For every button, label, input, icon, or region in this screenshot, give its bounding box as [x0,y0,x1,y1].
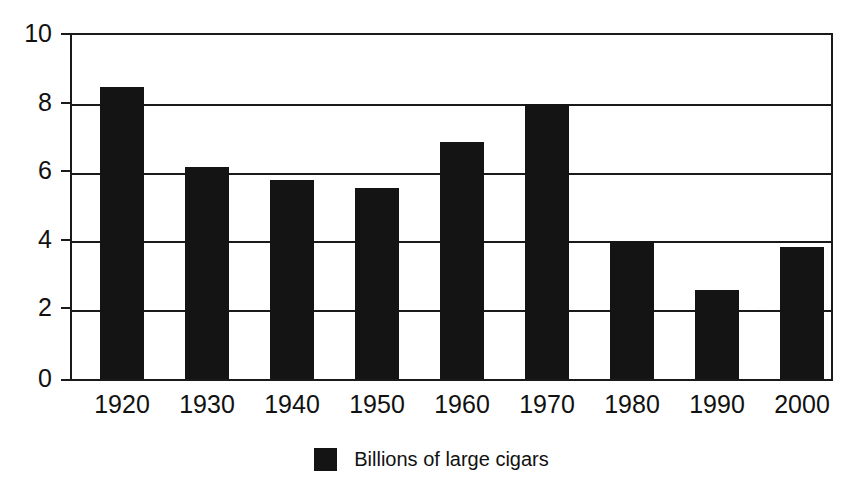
bar-1930 [185,167,229,379]
gridline-8 [72,104,831,106]
bar-1980 [610,241,654,379]
y-axis-tick-0 [61,379,70,381]
bar-1960 [440,142,484,379]
chart-title [0,0,863,3]
bar-1940 [270,180,314,380]
y-axis-tick-6 [61,170,70,172]
y-axis-tick-10 [61,33,70,35]
bar-1970 [525,104,569,379]
y-axis-label-4: 4 [6,227,52,252]
bar-1990 [695,290,739,379]
legend-label: Billions of large cigars [354,448,549,471]
bar-1920 [100,87,144,379]
plot-area [70,33,833,381]
y-axis-label-0: 0 [6,366,52,391]
y-axis-tick-2 [61,307,70,309]
chart-legend: Billions of large cigars [0,448,863,471]
bar-2000 [780,247,824,379]
y-axis-tick-4 [61,239,70,241]
legend-swatch-icon [314,448,337,471]
x-axis-label-2000: 2000 [750,390,854,418]
y-axis-label-6: 6 [6,158,52,183]
bar-1950 [355,188,399,379]
y-axis-label-8: 8 [6,90,52,115]
bar-chart-figure: 10 8 6 4 2 0 1920 1930 1940 1950 1960 19… [0,0,863,499]
y-axis-label-2: 2 [6,295,52,320]
y-axis-tick-8 [61,102,70,104]
y-axis-label-10: 10 [6,21,52,46]
